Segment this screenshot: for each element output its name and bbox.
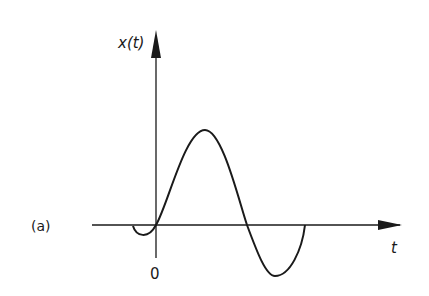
signal-curve (133, 130, 305, 276)
t-axis-arrow-icon (378, 220, 402, 230)
y-axis-arrow-icon (151, 30, 161, 58)
x-axis-label: t (391, 239, 398, 257)
signal-diagram: x(t) t 0 (a) (0, 0, 429, 296)
origin-label: 0 (150, 265, 160, 283)
y-axis-label: x(t) (117, 34, 144, 52)
panel-label: (a) (31, 218, 51, 234)
